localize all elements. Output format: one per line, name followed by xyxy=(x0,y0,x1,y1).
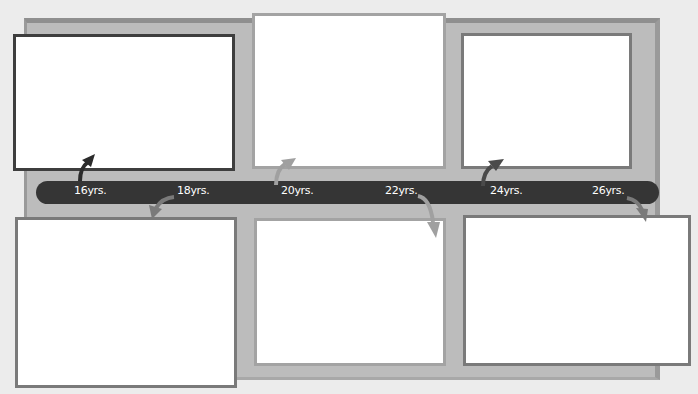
timeline-label-22: 22yrs. xyxy=(385,184,417,197)
timeline-label-18: 18yrs. xyxy=(177,184,209,197)
frame-20yrs-bottom xyxy=(254,218,446,366)
timeline-label-20: 20yrs. xyxy=(281,184,313,197)
frame-20yrs xyxy=(252,13,446,169)
frame-18yrs xyxy=(15,217,237,388)
frame-26yrs xyxy=(463,215,691,366)
timeline-label-16: 16yrs. xyxy=(74,184,106,197)
timeline-label-26: 26yrs. xyxy=(592,184,624,197)
frame-16yrs xyxy=(13,34,235,171)
timeline-bar xyxy=(36,181,659,204)
frame-24yrs xyxy=(461,33,632,169)
timeline-label-24: 24yrs. xyxy=(490,184,522,197)
